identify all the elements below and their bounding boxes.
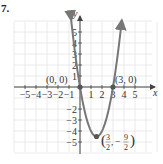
y-tick-label: 1 [72, 71, 77, 82]
point-marker [94, 134, 99, 139]
x-tick-label: −4 [31, 89, 42, 100]
x-tick-label: 5 [133, 89, 138, 100]
x-tick-label: −2 [53, 89, 64, 100]
origin-label: (0, 0) [46, 74, 68, 86]
vertex-comma: , [111, 137, 113, 147]
vertex-paren-right: ) [130, 132, 135, 149]
x-axis-label: x [152, 87, 158, 98]
x-tick-label: 1 [89, 89, 94, 100]
x-tick-label: −3 [42, 89, 53, 100]
y-tick-label: −5 [66, 137, 77, 148]
parabola-chart: xy−5−4−3−2−11234554321−2−3−4−5(0, 0)(3, … [0, 0, 163, 164]
point-marker [110, 84, 115, 89]
y-axis-label: y [72, 8, 78, 19]
y-tick-label: −2 [66, 104, 77, 115]
x-tick-label: 2 [100, 89, 105, 100]
x-tick-label: −1 [64, 89, 75, 100]
x-tick-label: −5 [20, 89, 31, 100]
vertex-x-denominator: 2 [106, 143, 110, 152]
point-marker [77, 84, 82, 89]
vertex-y-denominator: 2 [124, 143, 128, 152]
vertex-x-numerator: 3 [106, 133, 110, 142]
vertex-minus: − [115, 136, 121, 147]
root-label: (3, 0) [115, 74, 137, 86]
y-tick-label: −4 [66, 126, 77, 137]
vertex-y-numerator: 9 [124, 133, 128, 142]
y-tick-label: −3 [66, 115, 77, 126]
x-tick-label: 4 [122, 89, 127, 100]
